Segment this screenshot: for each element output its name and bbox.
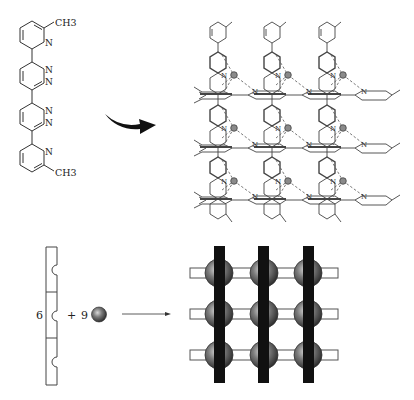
svg-text:N: N: [252, 141, 258, 149]
n-atom-label: N: [45, 77, 53, 87]
svg-text:N: N: [361, 141, 367, 149]
grid-metal-ions: [231, 72, 347, 185]
grid-complex-structure: [194, 22, 400, 222]
svg-text:N: N: [361, 88, 367, 96]
ligand-labels: CH3 N N N N N N CH3: [45, 17, 77, 178]
metal-ion-sphere-icon: [92, 307, 107, 322]
reaction-arrow-icon: [122, 312, 171, 316]
svg-text:N: N: [275, 72, 281, 80]
methyl-label-bottom: CH3: [55, 167, 77, 178]
svg-text:N: N: [275, 125, 281, 133]
n-atom-label: N: [45, 65, 53, 75]
svg-text:N: N: [306, 88, 312, 96]
svg-text:N: N: [330, 72, 336, 80]
svg-text:N: N: [306, 141, 312, 149]
metal-count: 9: [81, 309, 88, 322]
svg-text:N: N: [252, 88, 258, 96]
svg-text:N: N: [221, 178, 227, 186]
n-atom-label: N: [45, 147, 53, 157]
plus-sign: +: [67, 309, 76, 322]
ligand-count: 6: [36, 309, 43, 322]
svg-text:N: N: [330, 125, 336, 133]
svg-text:N: N: [330, 178, 336, 186]
pyridazine-ring-1: [20, 62, 44, 90]
curved-arrow-icon: [105, 114, 156, 134]
n-atom-label: N: [45, 118, 53, 128]
svg-text:N: N: [221, 125, 227, 133]
n-atom-label: N: [45, 106, 53, 116]
horizontal-ligands: [194, 87, 400, 208]
schematic-ligand-strip: [46, 247, 57, 385]
svg-text:N: N: [275, 178, 281, 186]
svg-text:N: N: [306, 193, 312, 201]
vertical-ligands: [210, 22, 341, 222]
schematic-grid: [190, 246, 338, 383]
svg-text:N: N: [221, 72, 227, 80]
methyl-label-top: CH3: [55, 17, 77, 28]
scheme-canvas: CH3 N N N N N N CH3: [0, 0, 414, 400]
svg-text:N: N: [361, 193, 367, 201]
svg-text:N: N: [252, 193, 258, 201]
pyridazine-ring-2: [20, 103, 44, 131]
n-atom-label: N: [45, 38, 53, 48]
